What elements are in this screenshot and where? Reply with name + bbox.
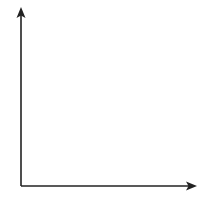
coordinate-grid bbox=[0, 0, 198, 207]
axes bbox=[17, 7, 198, 191]
